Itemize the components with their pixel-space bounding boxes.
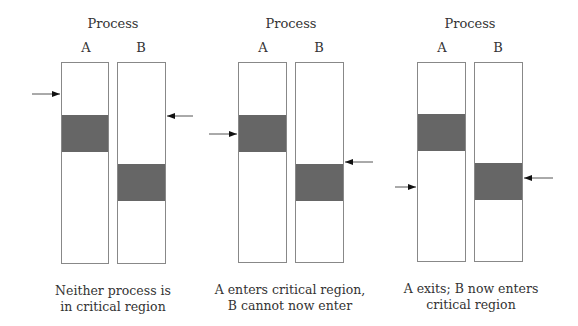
arrows-layer: [0, 0, 578, 326]
